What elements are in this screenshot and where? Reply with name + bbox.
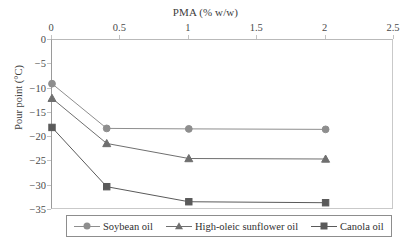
data-point-marker (49, 124, 55, 130)
chart-figure: PMA (% w/w) Pour point (°C) 00.511.522.5… (0, 0, 411, 248)
legend-label: Soybean oil (103, 221, 153, 232)
x-tick-label: 0.5 (113, 22, 126, 33)
x-tick-label: 1.5 (250, 22, 263, 33)
legend-item[interactable]: High-oleic sunflower oil (166, 221, 298, 232)
legend-marker-circle-icon (84, 223, 91, 230)
data-point-marker (49, 80, 56, 87)
series-line (52, 84, 326, 130)
legend-swatch (166, 221, 192, 232)
x-tick-mark (393, 35, 394, 39)
data-point-marker (103, 125, 110, 132)
legend-item[interactable]: Canola oil (311, 221, 383, 232)
legend-label: High-oleic sunflower oil (195, 221, 298, 232)
data-point-marker (48, 94, 56, 101)
y-tick-label: −30 (18, 179, 46, 190)
legend-marker-triangle-icon (175, 222, 183, 229)
x-tick-label: 2 (322, 22, 327, 33)
series-line (52, 127, 326, 202)
y-tick-label: 0 (18, 34, 46, 45)
y-tick-label: −35 (18, 204, 46, 215)
y-tick-label: −25 (18, 155, 46, 166)
x-tick-label: 1 (185, 22, 190, 33)
legend-item[interactable]: Soybean oil (74, 221, 153, 232)
series-layer (52, 40, 394, 210)
plot-area (51, 39, 393, 209)
series-circle (49, 80, 329, 132)
x-tick-label: 2.5 (386, 22, 399, 33)
legend-label: Canola oil (340, 221, 383, 232)
y-tick-label: −10 (18, 82, 46, 93)
series-square (49, 124, 329, 206)
chart-title: PMA (% w/w) (0, 6, 411, 18)
legend-marker-square-icon (321, 223, 328, 230)
x-tick-label: 0 (48, 22, 53, 33)
data-point-marker (185, 125, 192, 132)
y-tick-label: −20 (18, 131, 46, 142)
data-point-marker (322, 200, 328, 206)
y-tick-mark (47, 209, 51, 210)
data-point-marker (186, 199, 192, 205)
data-point-marker (322, 126, 329, 133)
legend-swatch (74, 221, 100, 232)
chart-legend: Soybean oilHigh-oleic sunflower oilCanol… (66, 215, 392, 237)
y-tick-label: −15 (18, 106, 46, 117)
y-axis-title: Pour point (°C) (13, 28, 24, 168)
legend-swatch (311, 221, 337, 232)
data-point-marker (104, 183, 110, 189)
y-tick-label: −5 (18, 58, 46, 69)
